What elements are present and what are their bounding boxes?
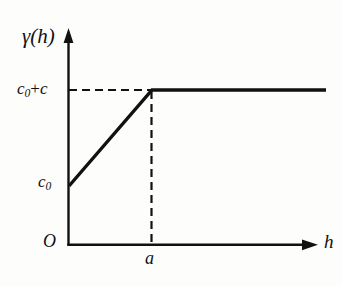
variogram-curve	[69, 90, 326, 186]
plus-operator: +	[30, 79, 40, 98]
y-axis-title: γ(h)	[22, 26, 55, 47]
sill-c2-symbol: c	[40, 79, 48, 98]
x-axis-title: h	[324, 232, 334, 251]
sill-c-symbol: c	[17, 79, 25, 98]
sill-tick-label: c0+c	[17, 80, 47, 100]
nugget-subscript: 0	[46, 180, 52, 193]
variogram-figure: γ(h) c0+c c0 O a h	[0, 0, 342, 286]
nugget-c-symbol: c	[38, 172, 46, 191]
y-axis-arg: h	[37, 24, 48, 48]
origin-label: O	[43, 232, 56, 250]
nugget-tick-label: c0	[38, 173, 51, 193]
x-axis-arrowhead	[302, 239, 318, 250]
paren-close: )	[48, 24, 55, 48]
y-axis	[64, 28, 74, 246]
y-axis-arrowhead	[64, 28, 74, 43]
range-tick-label: a	[145, 249, 154, 267]
x-axis	[67, 239, 318, 250]
